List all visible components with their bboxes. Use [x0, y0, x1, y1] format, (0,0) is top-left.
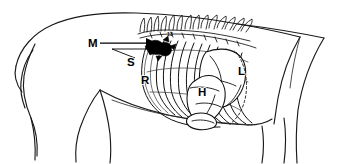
brisket-contour [248, 119, 272, 125]
spinous-process-5 [169, 15, 174, 30]
sternal-lobe-path [186, 113, 216, 130]
neck-topline-path [238, 24, 324, 38]
leader-lines-group [100, 38, 160, 58]
hindquarter-crease [21, 50, 33, 108]
label-s: S [127, 56, 135, 68]
anatomy-diagram-canvas: 13 [0, 0, 340, 164]
shoulder-contour [274, 37, 300, 124]
mediastinum-spur-3 [156, 56, 162, 61]
spinous-process-4 [161, 16, 166, 31]
spinous-process-2 [147, 17, 152, 32]
foreleg-rear-contour [262, 126, 264, 163]
label-l: L [238, 65, 245, 77]
spinous-process-6 [177, 15, 182, 30]
vertebra-facet-9 [237, 41, 239, 46]
spinous-process-1 [140, 18, 145, 32]
spinous-process-9 [201, 15, 208, 29]
label-r: R [141, 74, 150, 86]
spinous-process-11 [217, 16, 226, 29]
shoulder-crease [290, 37, 300, 88]
hind-leg-inner-path [100, 90, 111, 163]
spinous-process-3 [154, 16, 159, 31]
spinous-process-10 [209, 15, 217, 29]
mediastinum-dark-mass-2 [158, 42, 172, 56]
label-h: H [198, 86, 206, 98]
rib-5 [170, 41, 190, 118]
label-m: M [88, 37, 98, 49]
shoulder-outer-contour [296, 38, 324, 163]
flank-fold-path [76, 90, 100, 162]
foreleg-front-contour [284, 118, 286, 163]
anatomy-figure: 13 [0, 0, 340, 164]
